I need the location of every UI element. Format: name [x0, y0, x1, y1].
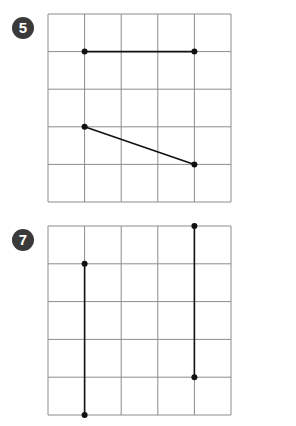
endpoint-dot: [82, 412, 88, 418]
problem-7-grid: [0, 0, 296, 426]
endpoint-dot: [191, 223, 197, 229]
endpoint-dot: [82, 261, 88, 267]
endpoint-dot: [191, 374, 197, 380]
